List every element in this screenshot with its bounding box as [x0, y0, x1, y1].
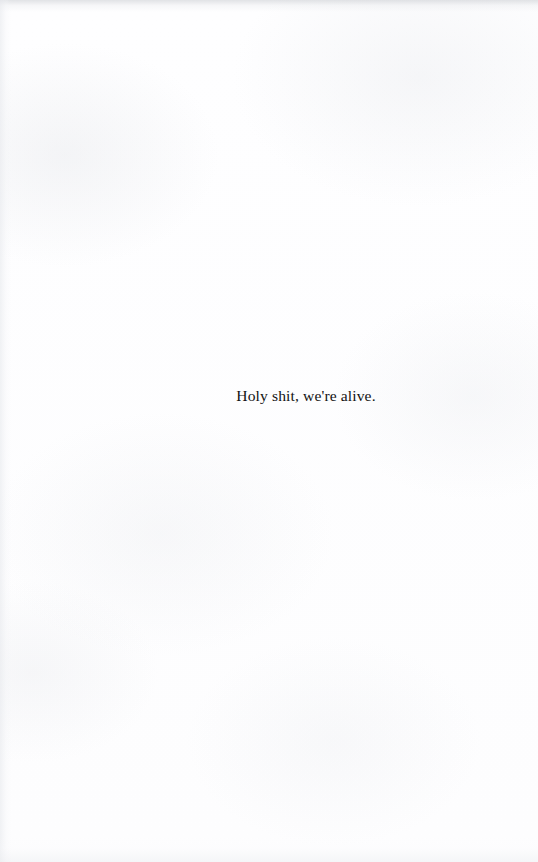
body-text-block: Holy shit, we're alive. — [0, 386, 538, 405]
scan-bottom-edge-artifact — [0, 836, 538, 862]
scanned-page: Holy shit, we're alive. — [0, 0, 538, 862]
body-text-line: Holy shit, we're alive. — [236, 386, 375, 405]
scan-top-edge-artifact — [0, 0, 538, 12]
scan-left-edge-artifact — [0, 0, 11, 862]
